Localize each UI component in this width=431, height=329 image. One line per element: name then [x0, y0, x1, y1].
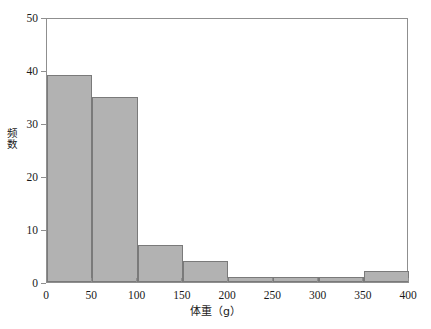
histogram-bar [138, 245, 183, 282]
bars-layer [47, 19, 407, 282]
plot-area [46, 18, 408, 283]
histogram-chart: 频数 01020304050 050100150200250300350400 … [0, 0, 431, 329]
x-tick-label: 250 [264, 288, 281, 302]
x-tick-label: 200 [218, 288, 235, 302]
x-tick-mark [362, 278, 363, 283]
x-tick-label: 0 [43, 288, 49, 302]
y-tick-label: 40 [27, 63, 39, 79]
y-tick-label: 10 [27, 222, 39, 238]
x-tick-mark [136, 278, 137, 283]
x-tick-mark [408, 278, 409, 283]
y-axis: 01020304050 [0, 0, 46, 329]
histogram-bar [183, 261, 228, 282]
x-tick-mark [46, 278, 47, 283]
x-tick-label: 50 [86, 288, 98, 302]
x-tick-mark [181, 278, 182, 283]
y-tick-label: 50 [27, 10, 39, 26]
x-tick-label: 150 [173, 288, 190, 302]
histogram-bar [364, 271, 409, 282]
x-tick-mark [317, 278, 318, 283]
y-tick-label: 30 [27, 116, 39, 132]
x-axis-title: 体重（g） [0, 302, 431, 318]
histogram-bar [47, 75, 92, 282]
x-tick-label: 100 [128, 288, 145, 302]
y-tick-label: 20 [27, 169, 39, 185]
x-tick-mark [227, 278, 228, 283]
x-tick-mark [91, 278, 92, 283]
histogram-bar [319, 277, 364, 282]
x-tick-label: 350 [354, 288, 371, 302]
histogram-bar [228, 277, 273, 282]
histogram-bar [92, 97, 137, 283]
x-tick-label: 300 [309, 288, 326, 302]
x-tick-mark [272, 278, 273, 283]
x-tick-label: 400 [399, 288, 416, 302]
histogram-bar [273, 277, 318, 282]
